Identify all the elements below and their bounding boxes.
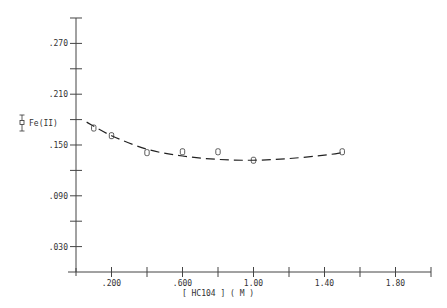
fit-curve-path	[87, 122, 343, 160]
data-point-marker	[145, 150, 149, 156]
y-tick-label: .150	[49, 141, 68, 150]
data-point-marker	[216, 149, 220, 155]
chart-area: .030.090.150.210.270.200.6001.001.401.80…	[0, 0, 447, 308]
x-tick-label: .600	[173, 279, 192, 288]
data-point-marker	[180, 149, 184, 155]
legend-marker-icon	[20, 115, 25, 131]
x-tick-label: 1.00	[244, 279, 263, 288]
y-tick-label: .210	[49, 90, 68, 99]
x-axis-label: [ HC104 ] ( M )	[182, 289, 254, 298]
axes: .030.090.150.210.270.200.6001.001.401.80	[49, 18, 431, 288]
x-tick-label: .200	[102, 279, 121, 288]
data-point-marker	[340, 149, 344, 155]
legend-label: Fe(II)	[29, 119, 58, 128]
y-tick-label: .090	[49, 192, 68, 201]
y-tick-label: .030	[49, 243, 68, 252]
y-tick-label: .270	[49, 39, 68, 48]
fit-curve	[87, 122, 343, 160]
x-tick-label: 1.80	[386, 279, 405, 288]
legend: Fe(II)	[20, 115, 58, 131]
x-tick-label: 1.40	[315, 279, 334, 288]
